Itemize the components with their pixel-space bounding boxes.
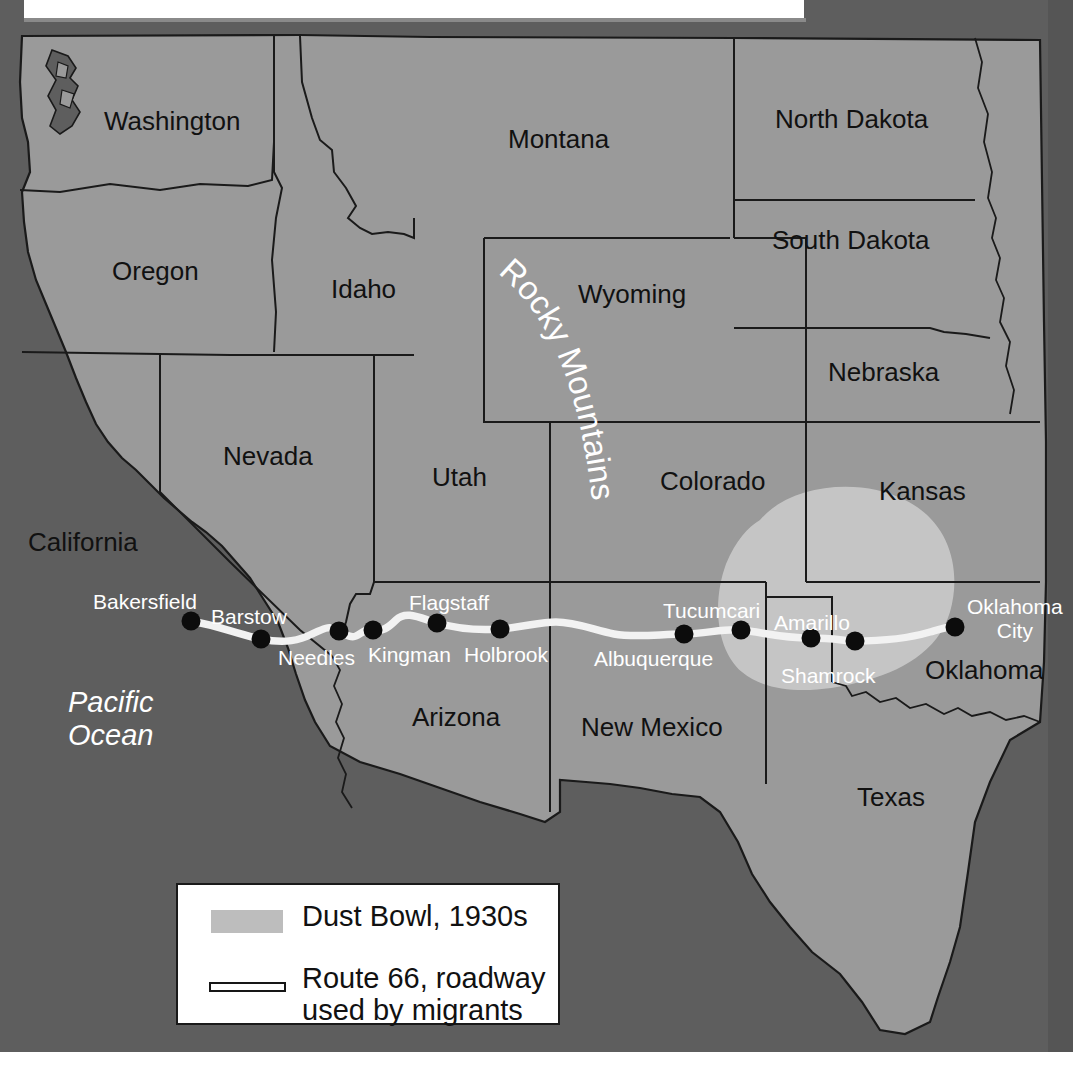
state-label-utah: Utah: [432, 464, 487, 490]
state-label-oklahoma: Oklahoma: [925, 657, 1044, 683]
state-label-nevada: Nevada: [223, 443, 313, 469]
legend-swatch-dust-bowl: [211, 910, 283, 933]
state-label-texas: Texas: [857, 784, 925, 810]
state-label-oregon: Oregon: [112, 258, 199, 284]
city-label-albuquerque: Albuquerque: [594, 648, 713, 669]
pacific-ocean-line2: Ocean: [68, 719, 153, 752]
city-label-amarillo: Amarillo: [774, 612, 850, 633]
city-label-shamrock: Shamrock: [781, 665, 876, 686]
state-label-colorado: Colorado: [660, 468, 766, 494]
map-figure: Rocky Mountains Washington Oregon Idaho …: [0, 0, 1073, 1079]
city-label-tucumcari: Tucumcari: [663, 600, 760, 621]
city-label-holbrook: Holbrook: [464, 644, 548, 665]
city-label-oklahoma-city: Oklahoma City: [967, 596, 1063, 641]
state-label-idaho: Idaho: [331, 276, 396, 302]
pacific-ocean-line1: Pacific: [68, 686, 153, 719]
bottom-white-band: [0, 1052, 1073, 1079]
state-label-arizona: Arizona: [412, 704, 500, 730]
title-band: [24, 0, 804, 18]
city-dot-flagstaff: [428, 614, 447, 633]
pacific-ocean-label: Pacific Ocean: [68, 686, 153, 753]
state-label-washington: Washington: [104, 108, 240, 134]
oklahoma-city-line1: Oklahoma: [967, 596, 1063, 617]
state-label-california: California: [28, 529, 138, 555]
legend-label-dust-bowl: Dust Bowl, 1930s: [302, 900, 528, 933]
oklahoma-city-line2: City: [967, 620, 1063, 641]
city-label-kingman: Kingman: [368, 644, 451, 665]
city-dot-needles: [330, 622, 349, 641]
city-dot-barstow: [252, 630, 271, 649]
legend-route-line2: used by migrants: [302, 994, 545, 1026]
state-label-new-mexico: New Mexico: [581, 714, 723, 740]
state-label-kansas: Kansas: [879, 478, 966, 504]
city-dot-oklahoma-city: [946, 618, 965, 637]
city-dot-shamrock: [846, 632, 865, 651]
city-dot-albuquerque: [675, 625, 694, 644]
city-label-needles: Needles: [278, 647, 355, 668]
city-label-flagstaff: Flagstaff: [409, 592, 489, 613]
state-label-nebraska: Nebraska: [828, 359, 939, 385]
legend-route-line1: Route 66, roadway: [302, 962, 545, 994]
state-label-south-dakota: South Dakota: [772, 227, 930, 253]
city-label-bakersfield: Bakersfield: [93, 591, 197, 612]
map-legend: Dust Bowl, 1930s Route 66, roadway used …: [176, 883, 560, 1025]
legend-swatch-route-66: [209, 982, 286, 992]
state-label-montana: Montana: [508, 126, 609, 152]
state-label-wyoming: Wyoming: [578, 281, 686, 307]
city-dot-tucumcari: [732, 621, 751, 640]
city-dot-holbrook: [491, 620, 510, 639]
city-dot-bakersfield: [182, 612, 201, 631]
city-dot-kingman: [364, 621, 383, 640]
city-label-barstow: Barstow: [211, 606, 287, 627]
legend-label-route-66: Route 66, roadway used by migrants: [302, 962, 545, 1027]
state-label-north-dakota: North Dakota: [775, 106, 928, 132]
right-edge-shadow: [1048, 0, 1073, 1052]
